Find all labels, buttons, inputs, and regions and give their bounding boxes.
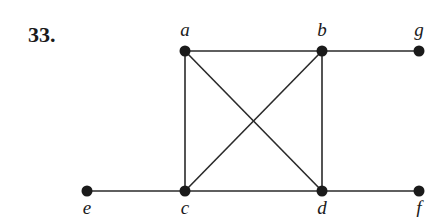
- vertex-g: [414, 46, 425, 57]
- vertex-label-e: e: [83, 197, 91, 217]
- vertex-c: [180, 186, 191, 197]
- graph-figure: 33. abgecdf: [0, 0, 446, 217]
- vertex-d: [317, 186, 328, 197]
- vertex-label-f: f: [416, 197, 424, 217]
- edges-layer: [87, 51, 419, 191]
- vertex-label-d: d: [317, 197, 327, 217]
- vertex-label-b: b: [317, 19, 327, 40]
- vertex-label-g: g: [414, 19, 424, 40]
- vertex-f: [414, 186, 425, 197]
- vertex-label-c: c: [181, 197, 190, 217]
- vertex-a: [180, 46, 191, 57]
- labels-layer: abgecdf: [83, 19, 425, 217]
- vertex-label-a: a: [180, 19, 190, 40]
- graph-canvas: abgecdf: [0, 0, 446, 217]
- vertex-e: [82, 186, 93, 197]
- vertex-b: [317, 46, 328, 57]
